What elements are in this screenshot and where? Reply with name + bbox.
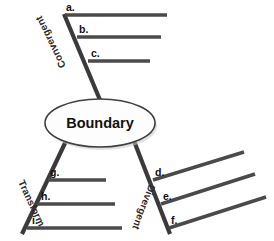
item-letter-g: g.: [50, 166, 59, 178]
center-node-label: Boundary: [66, 115, 134, 131]
diagram-canvas: Convergent a. b. c. Divergent: [0, 0, 274, 241]
item-letter-c: c.: [91, 47, 100, 59]
concept-map-diagram: Convergent a. b. c. Divergent: [0, 0, 274, 241]
item-letter-i: i.: [32, 214, 38, 226]
item-d: d.: [153, 152, 244, 180]
item-g: g.: [48, 166, 106, 180]
branch-transform: Transform g. h. i.: [16, 141, 122, 234]
item-c: c.: [88, 47, 150, 61]
item-a: a.: [65, 1, 167, 15]
item-letter-a: a.: [66, 1, 75, 13]
branch-label-divergent: Divergent: [130, 183, 157, 231]
center-node-boundary[interactable]: Boundary: [45, 99, 157, 150]
answer-line-f[interactable]: [169, 197, 266, 228]
item-letter-d: d.: [155, 166, 164, 178]
item-letter-e: e.: [163, 190, 172, 202]
answer-line-d[interactable]: [153, 152, 244, 180]
item-letter-b: b.: [79, 23, 88, 35]
branch-label-convergent: Convergent: [33, 14, 68, 70]
branch-divergent: Divergent d. e. f.: [130, 141, 266, 234]
item-f: f.: [169, 197, 266, 228]
item-b: b.: [77, 23, 161, 37]
branch-convergent: Convergent a. b. c.: [33, 1, 167, 100]
item-letter-f: f.: [171, 214, 177, 226]
item-e: e.: [161, 174, 255, 204]
answer-line-e[interactable]: [161, 174, 255, 204]
item-h: h.: [37, 190, 115, 204]
item-letter-h: h.: [41, 190, 50, 202]
